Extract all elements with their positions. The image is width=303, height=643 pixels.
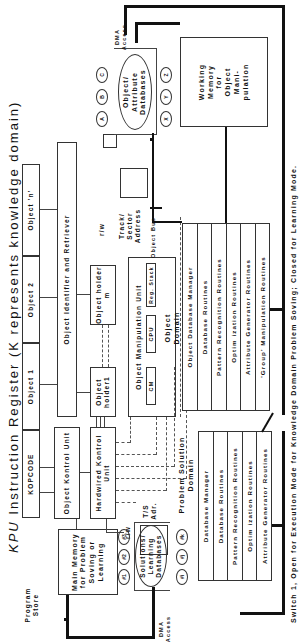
track-sector-box <box>120 168 148 198</box>
bus-line <box>102 325 103 367</box>
reg-stack-box: Reg. Stack <box>146 263 156 307</box>
ir-field-kopcode: KOPCODE <box>22 430 40 518</box>
db-oval-y: Y <box>160 89 172 105</box>
psd-row: Optim ization Routines <box>243 432 258 580</box>
db-bracket <box>156 48 157 135</box>
problem-solution-domain-title: Problem Solution Domain <box>178 435 196 515</box>
connector <box>40 209 57 210</box>
dma-bus <box>124 5 127 35</box>
rw-top-box <box>103 134 117 148</box>
sol-oval-i: #i <box>176 569 188 585</box>
connector <box>40 384 57 385</box>
title-prefix: KPU <box>6 520 21 553</box>
db-oval-b: B <box>96 89 108 105</box>
connector <box>77 392 90 393</box>
control-line <box>166 417 167 491</box>
db-oval-a: A <box>96 111 108 127</box>
connector <box>40 297 57 298</box>
sol-dma-bus <box>152 587 155 639</box>
control-line <box>116 478 186 479</box>
switch-bus-left <box>240 612 285 615</box>
dma-bus <box>124 5 284 8</box>
object-domain-row: Pattern Recognition Routines <box>212 224 227 410</box>
object-domain-row: 'Group' Manipulation Routines <box>256 224 271 410</box>
db-oval-z: Z <box>160 67 172 83</box>
psd-row: Attribute Generator Routines <box>257 432 272 580</box>
ir-field-object-n: Object 'n' <box>22 164 40 256</box>
psd-row: Database Routines <box>214 432 229 580</box>
sol-oval-2: #2 <box>118 549 130 565</box>
psd-row: Pattern Recognition Routines <box>228 432 243 580</box>
switch-bus-right <box>282 5 285 415</box>
problem-solution-routines: Database Manager Database Routines Patte… <box>198 431 272 581</box>
bus-line <box>104 417 105 427</box>
cm-box: CM <box>146 367 156 405</box>
dma-access-bottom: DMA Access <box>158 615 172 643</box>
sol-oval-k: #k <box>176 529 188 545</box>
connector <box>40 467 54 468</box>
cpu-box: CPU <box>146 315 156 353</box>
object-bus <box>152 221 182 223</box>
diagram-title: KPU Instruction Register (K represents k… <box>6 101 21 553</box>
control-line <box>174 367 175 467</box>
object-bus <box>152 133 154 223</box>
wm-bus <box>225 127 227 223</box>
mm-dma-bus <box>66 595 69 639</box>
sol-bracket <box>134 522 170 523</box>
psd-row: Database Manager <box>199 432 214 580</box>
sol-oval-1: #1 <box>118 569 130 585</box>
switch-1 <box>261 413 274 433</box>
dma-bus <box>135 23 138 43</box>
bus-line <box>100 417 101 427</box>
object-bus-label: Object Bus <box>150 217 157 258</box>
object-domain-row: Database Routines <box>198 224 213 410</box>
psd-bus-drop <box>272 524 284 527</box>
object-domain-routines: Object Database Manager Database Routine… <box>182 223 270 411</box>
caption: Switch 1, Open for Execution Mode for Kn… <box>290 165 297 623</box>
db-oval-c: C <box>96 67 108 83</box>
object-domain-row: Object Database Manager <box>183 224 198 410</box>
connector <box>77 294 90 295</box>
kpu-architecture-diagram: KPU Instruction Register (K represents k… <box>0 0 303 643</box>
db-bracket <box>114 134 156 135</box>
ir-field-object-1: Object 1 <box>22 343 40 430</box>
bus-line <box>96 417 97 427</box>
object-holder-1: Object holder1 <box>90 367 116 417</box>
solutions-learning-databases: Solutions/ Learning Databases <box>135 525 167 587</box>
connector <box>80 472 90 473</box>
object-identifier-retriever: Object Identifier and Retriever <box>57 142 77 417</box>
object-domain-row: Attribute Generator Routines <box>241 224 256 410</box>
control-line <box>116 502 136 503</box>
bus-line <box>108 325 109 367</box>
main-memory: Main Memory for Problem Soving or Learni… <box>58 529 118 595</box>
dma-bus <box>135 22 180 25</box>
ir-field-object-2: Object 2 <box>22 256 40 343</box>
program-store-label: Program Store <box>24 575 40 635</box>
control-line <box>156 417 157 455</box>
sol-oval-3: #3 <box>118 529 130 545</box>
object-holder-m: Object holder m <box>90 265 116 325</box>
switch-bus-drop <box>270 308 284 311</box>
object-attribute-databases: Object/ Attribute Databases <box>118 54 152 130</box>
object-domain-row: Optim ization Routines <box>227 224 242 410</box>
control-line <box>116 454 156 455</box>
ts-adr-label: T/S Adr. <box>142 499 158 523</box>
control-line <box>116 442 130 443</box>
track-sector-label: Track/ Sector Address <box>118 201 142 251</box>
mm-dma-bus <box>66 636 154 639</box>
hardwired-kontrol-unit: Hardwired Kontrol Unit <box>90 427 116 519</box>
connector <box>106 519 107 533</box>
db-oval-x: X <box>160 111 172 127</box>
switch-bus-left <box>282 431 285 615</box>
control-line <box>116 490 166 491</box>
working-memory: Working Memory for Object Mani-pulation <box>180 37 268 127</box>
control-line <box>130 417 131 443</box>
object-kontrol-unit: Object Kontrol Unit <box>54 427 80 519</box>
object-domain-title: Object Domain <box>164 303 182 353</box>
sol-oval-j: #j <box>176 549 188 565</box>
title-main: Instruction Register (K represents knowl… <box>6 101 21 515</box>
rw-top-label: r/w <box>98 223 106 236</box>
